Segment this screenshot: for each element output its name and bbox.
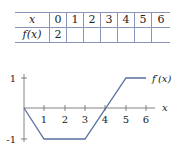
x-tick-label: 5 [123,114,129,125]
y-tick-label: -1 [6,134,16,145]
y-tick-label: 1 [10,73,16,84]
x-tick-label: 4 [102,114,108,125]
x-tick-label: 3 [82,114,88,125]
derivative-graph: 1 2 3 4 5 6 1 -1 x f′(x) [0,0,186,155]
x-tick-label: 1 [41,114,47,125]
x-tick-label: 6 [143,114,149,125]
x-axis-label: x [162,102,168,113]
curve-label: f′(x) [151,73,172,84]
x-tick-label: 2 [62,114,68,125]
